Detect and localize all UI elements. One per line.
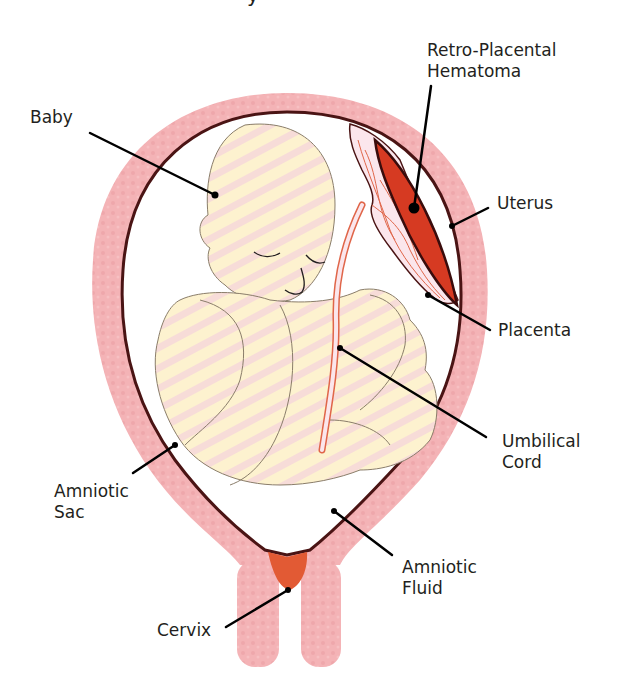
- label-amniotic-sac-line2: Sac: [54, 502, 85, 522]
- label-amniotic-sac-line1: Amniotic: [54, 481, 129, 501]
- label-umbilical-line1: Umbilical: [502, 431, 580, 451]
- label-baby: Baby: [30, 107, 73, 127]
- anatomy-illustration: y: [0, 0, 637, 692]
- label-hematoma-line1: Retro-Placental: [427, 40, 556, 60]
- label-amniotic-fluid-line1: Amniotic: [402, 557, 477, 577]
- placental-abruption-diagram: y: [0, 0, 637, 692]
- label-cervix: Cervix: [157, 620, 211, 640]
- label-uterus: Uterus: [497, 193, 553, 213]
- label-amniotic-fluid-line2: Fluid: [402, 578, 443, 598]
- title-fragment: y: [247, 0, 259, 7]
- label-hematoma-line2: Hematoma: [427, 61, 521, 81]
- label-placenta: Placenta: [498, 320, 571, 340]
- label-umbilical-line2: Cord: [502, 452, 542, 472]
